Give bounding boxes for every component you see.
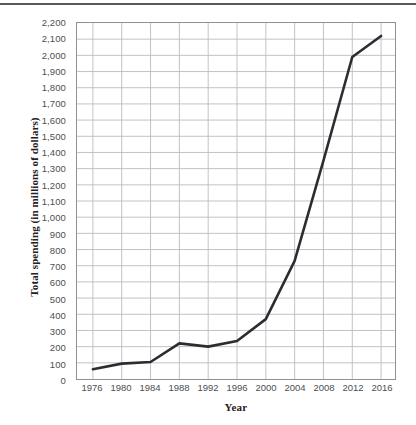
- y-axis-tick-label: 2,100: [42, 33, 66, 44]
- y-axis-tick-label: 1,200: [42, 179, 66, 190]
- y-axis-tick-label: 0: [61, 375, 66, 386]
- plot-area: [76, 22, 396, 380]
- y-axis-tick-label: 1,700: [42, 98, 66, 109]
- x-axis-tick-label: 2008: [313, 382, 334, 393]
- y-axis-title: Total spending (in millions of dollars): [28, 87, 40, 327]
- x-axis-tick-label: 1984: [139, 382, 160, 393]
- x-axis-tick-label: 1976: [81, 382, 102, 393]
- x-axis-tick-label: 1992: [197, 382, 218, 393]
- data-series-line: [77, 23, 395, 379]
- x-axis-tick-label: 2000: [255, 382, 276, 393]
- x-axis-tick-label: 1996: [226, 382, 247, 393]
- x-axis-tick-label: 2016: [371, 382, 392, 393]
- y-axis-tick-label: 200: [50, 342, 66, 353]
- x-axis-tick-label-group: 1976198019841988199219962000200420082012…: [76, 382, 396, 398]
- y-axis-tick-label: 700: [50, 261, 66, 272]
- y-axis-tick-label: 100: [50, 358, 66, 369]
- y-axis-tick-label: 1,900: [42, 65, 66, 76]
- y-axis-tick-label: 1,500: [42, 130, 66, 141]
- y-axis-tick-label: 900: [50, 228, 66, 239]
- x-axis-tick-label: 2012: [342, 382, 363, 393]
- y-axis-tick-label: 400: [50, 309, 66, 320]
- y-axis-tick-label: 800: [50, 244, 66, 255]
- line-chart-figure: 01002003004005006007008009001,0001,1001,…: [0, 0, 416, 425]
- x-axis-tick-label: 1988: [168, 382, 189, 393]
- y-axis-tick-label: 1,300: [42, 163, 66, 174]
- x-axis-title: Year: [76, 401, 396, 413]
- y-axis-tick-label: 500: [50, 293, 66, 304]
- y-axis-tick-label: 2,200: [42, 17, 66, 28]
- y-axis-tick-label: 1,400: [42, 147, 66, 158]
- y-axis-tick-label: 1,600: [42, 114, 66, 125]
- y-axis-tick-label: 1,000: [42, 212, 66, 223]
- x-axis-tick-label: 1980: [110, 382, 131, 393]
- y-axis-tick-label: 1,100: [42, 196, 66, 207]
- y-axis-tick-label: 600: [50, 277, 66, 288]
- y-axis-tick-label: 300: [50, 326, 66, 337]
- x-axis-tick-label: 2004: [284, 382, 305, 393]
- y-axis-tick-label: 1,800: [42, 82, 66, 93]
- y-axis-tick-label: 2,000: [42, 49, 66, 60]
